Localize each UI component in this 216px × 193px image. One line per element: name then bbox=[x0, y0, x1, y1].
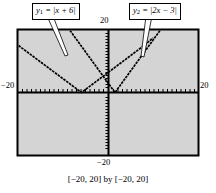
graphing-calculator-figure: y1 = |x + 6| y2 = |2x − 3| 20 20 −20 −20… bbox=[0, 0, 216, 193]
axis-label-xmin: −20 bbox=[1, 80, 14, 90]
figure-caption: [−20, 20] by [−20, 20] bbox=[0, 174, 216, 184]
callout-y2-text: y2 = |2x − 3| bbox=[133, 5, 177, 15]
callout-y1-sub: 1 bbox=[40, 8, 43, 15]
axis-label-ymax: 20 bbox=[100, 15, 109, 25]
callout-label-y1: y1 = |x + 6| bbox=[32, 3, 80, 20]
callout-y1-equals: = |x + 6| bbox=[45, 5, 76, 15]
axis-label-xmax: 20 bbox=[200, 80, 209, 90]
callout-label-y2: y2 = |2x − 3| bbox=[129, 3, 181, 20]
callout-y2-equals: = |2x − 3| bbox=[142, 5, 177, 15]
callout-y1-text: y1 = |x + 6| bbox=[36, 5, 76, 15]
callout-y2-sub: 2 bbox=[137, 8, 140, 15]
axis-label-ymin: −20 bbox=[97, 157, 110, 167]
